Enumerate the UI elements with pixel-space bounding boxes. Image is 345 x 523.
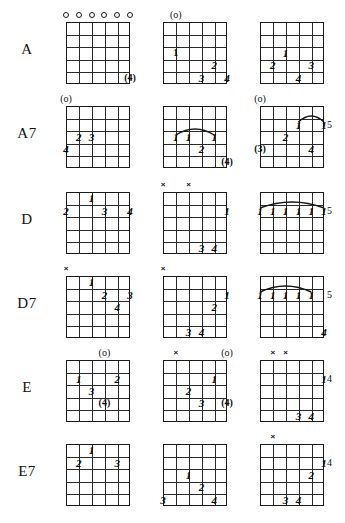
- string-line: [286, 193, 287, 253]
- fret-line: [164, 326, 226, 327]
- chord-diagram: 1234: [58, 178, 144, 262]
- fret-line: [261, 301, 323, 302]
- open-string-icon: (o): [170, 10, 182, 20]
- finger-marker: 4: [224, 72, 230, 83]
- fret-line: [67, 156, 129, 157]
- finger-marker: 3: [127, 289, 133, 300]
- finger-marker: 2: [283, 132, 289, 143]
- chord-name-label: D7: [0, 295, 54, 312]
- fret-line: [67, 119, 129, 120]
- finger-marker: 3: [186, 326, 192, 337]
- fret-line: [67, 289, 129, 290]
- finger-marker: 1: [224, 289, 230, 300]
- finger-marker: 1: [76, 373, 82, 384]
- string-line: [312, 193, 313, 253]
- string-line: [105, 193, 106, 253]
- string-line: [312, 23, 313, 83]
- chord-row: A(4)(o)12341234: [0, 8, 345, 92]
- fret-line: [164, 482, 226, 483]
- finger-marker: 3: [283, 494, 289, 505]
- string-line: [189, 23, 190, 83]
- fret-line: [164, 230, 226, 231]
- chord-name-label: D: [0, 211, 54, 228]
- finger-marker: 4: [308, 410, 314, 421]
- chord-diagram: 1111145: [252, 262, 338, 346]
- finger-marker: 4: [127, 205, 133, 216]
- chord-diagram: (o)234: [58, 92, 144, 176]
- string-line: [286, 277, 287, 337]
- string-line: [118, 107, 119, 167]
- finger-marker: 1: [186, 132, 192, 143]
- string-line: [299, 193, 300, 253]
- finger-marker: 1: [283, 289, 289, 300]
- fretboard-grid: [260, 106, 324, 168]
- open-string-icon: (o): [60, 94, 72, 104]
- chord-diagram: (o)112(3)45: [252, 92, 338, 176]
- finger-marker: 4: [321, 326, 327, 337]
- finger-marker: 1: [211, 132, 217, 143]
- string-line: [215, 23, 216, 83]
- finger-marker: 4: [211, 494, 217, 505]
- string-line: [215, 361, 216, 421]
- fret-line: [164, 469, 226, 470]
- fret-line: [261, 398, 323, 399]
- string-line: [105, 445, 106, 505]
- chord-name-label: A7: [0, 125, 54, 142]
- finger-marker: 2: [211, 60, 217, 71]
- string-line: [79, 193, 80, 253]
- string-line: [176, 277, 177, 337]
- fret-line: [261, 217, 323, 218]
- fret-line: [67, 60, 129, 61]
- string-line: [118, 445, 119, 505]
- fret-line: [261, 119, 323, 120]
- finger-marker: 3: [199, 398, 205, 409]
- finger-marker: 1: [211, 373, 217, 384]
- string-line: [105, 23, 106, 83]
- finger-marker: 2: [102, 289, 108, 300]
- fret-line: [67, 410, 129, 411]
- open-string-icon: [89, 12, 95, 18]
- fret-line: [67, 326, 129, 327]
- finger-marker: 2: [114, 373, 120, 384]
- fret-line: [67, 385, 129, 386]
- finger-marker: 1: [257, 205, 263, 216]
- fret-line: [67, 35, 129, 36]
- fret-line: [261, 230, 323, 231]
- fret-position-number: 4: [327, 374, 332, 384]
- fret-line: [261, 457, 323, 458]
- muted-string-icon: ×: [186, 181, 191, 189]
- fret-line: [261, 373, 323, 374]
- finger-marker: 1: [283, 48, 289, 59]
- finger-marker: 1: [296, 289, 302, 300]
- fret-line: [261, 314, 323, 315]
- fret-line: [164, 398, 226, 399]
- chord-diagram: ×(o)123(4): [155, 346, 241, 430]
- finger-marker: 1: [270, 289, 276, 300]
- open-string-icon: [101, 12, 107, 18]
- fret-line: [261, 494, 323, 495]
- finger-marker: 1: [89, 277, 95, 288]
- chord-diagram: 123: [58, 430, 144, 514]
- string-line: [92, 23, 93, 83]
- chord-row: A7(o)2341112(4)(o)112(3)45: [0, 92, 345, 176]
- finger-marker: 1: [89, 193, 95, 204]
- open-string-icon: (o): [254, 94, 266, 104]
- string-line: [202, 361, 203, 421]
- finger-marker: (3): [254, 144, 266, 154]
- muted-string-icon: ×: [173, 349, 178, 357]
- muted-string-icon: ×: [270, 349, 275, 357]
- fret-position-number: 5: [327, 206, 332, 216]
- fretboard-grid: [66, 444, 130, 506]
- fret-line: [67, 217, 129, 218]
- string-line: [273, 23, 274, 83]
- fret-line: [164, 217, 226, 218]
- muted-string-icon: ×: [161, 265, 166, 273]
- fret-line: [261, 242, 323, 243]
- fret-line: [67, 494, 129, 495]
- string-line: [299, 107, 300, 167]
- fret-position-number: 5: [327, 120, 332, 130]
- chord-diagram: 1234: [155, 430, 241, 514]
- string-line: [105, 107, 106, 167]
- finger-marker: 2: [199, 144, 205, 155]
- fret-line: [164, 205, 226, 206]
